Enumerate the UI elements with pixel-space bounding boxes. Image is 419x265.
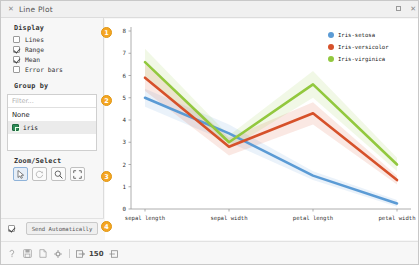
- checkbox-error-bars[interactable]: Error bars: [13, 66, 103, 73]
- y-tick-label: 3: [123, 139, 127, 145]
- instance-count: 150: [89, 250, 104, 258]
- send-automatically-button[interactable]: Send Automatically: [26, 222, 98, 235]
- checkbox-range-label: Range: [25, 46, 44, 53]
- window-controls: ✕: [396, 1, 416, 18]
- x-tick-label: petal width: [378, 215, 415, 222]
- report-icon[interactable]: [39, 249, 47, 258]
- y-tick-label: 5: [123, 95, 127, 101]
- window-title: Line Plot: [19, 5, 53, 14]
- checkbox-range[interactable]: Range: [13, 46, 103, 53]
- magnifier-icon: [54, 170, 63, 179]
- line-plot-window: ✕ Line Plot ✕ Display Lines Range Mean E…: [0, 0, 419, 265]
- checkbox-range-box[interactable]: [13, 46, 20, 53]
- checkbox-mean-label: Mean: [25, 56, 40, 63]
- legend-label[interactable]: Iris-virginica: [338, 56, 385, 63]
- group-by-section-title: Group by: [14, 82, 103, 90]
- close-icon[interactable]: ✕: [8, 6, 14, 13]
- save-icon[interactable]: [23, 249, 32, 258]
- zoom-select-section: Zoom/Select: [1, 157, 103, 181]
- checkbox-mean-box[interactable]: [13, 56, 20, 63]
- display-section-title: Display: [14, 24, 103, 32]
- checkbox-lines-label: Lines: [25, 36, 44, 43]
- legend-marker: [328, 44, 334, 50]
- group-by-item-iris-label: iris: [23, 124, 38, 131]
- fit-tool-button[interactable]: [70, 167, 85, 181]
- send-automatically-row: Send Automatically: [1, 218, 104, 238]
- zoom-select-toolbar: [13, 167, 103, 181]
- group-by-item-iris[interactable]: iris: [8, 121, 96, 134]
- y-tick-label: 4: [123, 117, 127, 123]
- y-tick-label: 6: [123, 73, 127, 79]
- legend-marker: [328, 32, 334, 38]
- zoom-tool-button[interactable]: [51, 167, 66, 181]
- output-arrow-icon: [109, 250, 118, 258]
- send-automatically-checkbox[interactable]: [8, 225, 15, 232]
- line-plot-chart[interactable]: 012345678sepal lengthsepal widthpetal le…: [105, 19, 419, 240]
- legend-label[interactable]: Iris-versicolor: [338, 44, 389, 50]
- chart-canvas: 012345678sepal lengthsepal widthpetal le…: [105, 19, 419, 240]
- group-by-item-none[interactable]: None: [8, 108, 96, 121]
- badge-2: 2: [101, 95, 112, 106]
- y-tick-label: 7: [123, 50, 127, 56]
- discrete-variable-icon: [12, 124, 19, 131]
- status-divider: [69, 249, 70, 258]
- checkbox-error-bars-box[interactable]: [13, 66, 20, 73]
- badge-1: 1: [101, 27, 112, 38]
- zoom-select-title: Zoom/Select: [14, 157, 103, 165]
- expand-fit-icon: [73, 170, 82, 179]
- control-panel: Display Lines Range Mean Error bars Grou…: [1, 18, 104, 218]
- y-tick-label: 0: [123, 206, 127, 212]
- group-by-list: Filter... None iris: [7, 94, 97, 151]
- status-bar: 150: [1, 241, 419, 265]
- settings-icon[interactable]: [54, 250, 62, 258]
- x-tick-label: sepal length: [125, 215, 165, 222]
- badge-3: 3: [101, 171, 112, 182]
- x-tick-label: sepal width: [210, 215, 247, 222]
- group-by-item-none-label: None: [12, 111, 30, 119]
- pan-tool-button[interactable]: [32, 167, 47, 181]
- legend-label[interactable]: Iris-setosa: [338, 32, 375, 38]
- y-tick-label: 1: [123, 184, 127, 190]
- badge-4: 4: [101, 221, 112, 232]
- checkbox-mean[interactable]: Mean: [13, 56, 103, 63]
- cursor-arrow-icon: [17, 170, 25, 179]
- window-title-bar: ✕ Line Plot ✕: [1, 1, 419, 18]
- reset-rotate-icon: [35, 170, 44, 179]
- checkbox-error-bars-label: Error bars: [25, 66, 63, 73]
- legend-marker: [328, 56, 334, 62]
- checkbox-lines-box[interactable]: [13, 36, 20, 43]
- help-icon[interactable]: [8, 249, 16, 258]
- maximize-icon[interactable]: [396, 6, 401, 13]
- window-close-icon[interactable]: ✕: [410, 6, 416, 13]
- y-tick-label: 8: [123, 28, 127, 34]
- checkbox-lines[interactable]: Lines: [13, 36, 103, 43]
- input-arrow-icon: [76, 250, 85, 258]
- x-tick-label: petal length: [293, 215, 333, 222]
- y-tick-label: 2: [123, 162, 127, 168]
- filter-input[interactable]: Filter...: [8, 95, 96, 108]
- select-tool-button[interactable]: [13, 167, 28, 181]
